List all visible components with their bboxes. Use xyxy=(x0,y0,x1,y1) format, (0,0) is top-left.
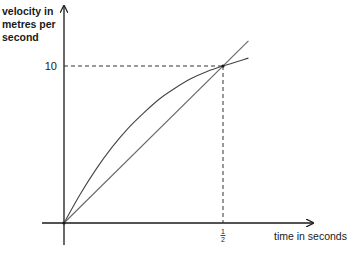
y-axis-label-line-3: second xyxy=(2,31,39,43)
origin-point xyxy=(62,221,65,224)
velocity-time-chart: velocity in metres per second 10 1 2 tim… xyxy=(0,0,355,255)
x-axis-label: time in seconds xyxy=(274,230,347,242)
y-axis-label-line-2: metres per xyxy=(2,18,56,30)
series-straight-line xyxy=(64,41,248,223)
x-tick-numerator: 1 xyxy=(221,228,225,235)
series-curve xyxy=(64,58,248,223)
intersection-point xyxy=(221,64,224,67)
y-tick-label-10: 10 xyxy=(45,60,57,72)
x-tick-denominator: 2 xyxy=(221,236,225,243)
y-axis-label-line-1: velocity in xyxy=(2,5,53,17)
x-tick-label-half: 1 2 xyxy=(221,228,226,243)
